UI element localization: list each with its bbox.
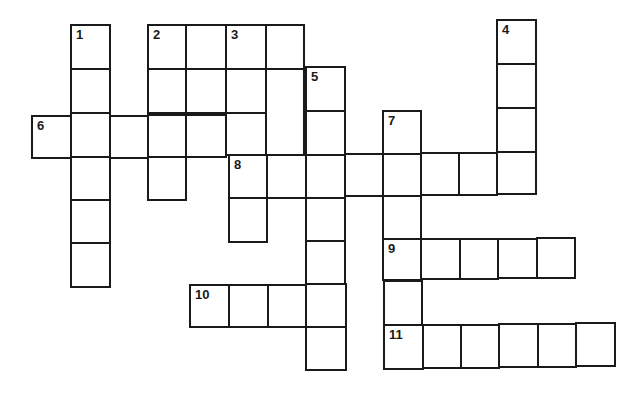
crossword-cell[interactable] xyxy=(70,156,111,201)
crossword-cell[interactable] xyxy=(185,68,227,114)
crossword-cell[interactable] xyxy=(383,280,423,326)
clue-number: 5 xyxy=(311,70,318,83)
crossword-cell[interactable] xyxy=(305,154,346,199)
crossword-cell[interactable] xyxy=(496,63,537,109)
crossword-cell[interactable] xyxy=(266,154,307,199)
crossword-cell[interactable] xyxy=(267,284,307,328)
clue-number: 7 xyxy=(388,114,395,127)
crossword-cell[interactable] xyxy=(185,114,227,158)
crossword-cell[interactable] xyxy=(460,324,500,369)
crossword-cell[interactable] xyxy=(265,24,305,70)
crossword-cell[interactable] xyxy=(185,24,227,70)
crossword-cell-1[interactable]: 1 xyxy=(70,24,111,70)
crossword-cell[interactable] xyxy=(228,284,269,328)
clue-number: 3 xyxy=(231,28,238,41)
crossword-cell[interactable] xyxy=(70,112,111,158)
crossword-cell[interactable] xyxy=(496,151,537,195)
crossword-cell[interactable] xyxy=(147,68,187,114)
crossword-cell[interactable] xyxy=(228,197,268,243)
clue-number: 10 xyxy=(195,288,209,301)
crossword-cell[interactable] xyxy=(147,156,187,201)
crossword-cell-10[interactable]: 10 xyxy=(189,284,230,328)
crossword-cell[interactable] xyxy=(225,112,267,156)
clue-number: 11 xyxy=(389,328,403,341)
crossword-cell-9[interactable]: 9 xyxy=(382,238,422,281)
crossword-cell-5[interactable]: 5 xyxy=(305,66,346,112)
crossword-cell[interactable] xyxy=(225,68,267,114)
crossword-cell[interactable] xyxy=(382,153,422,197)
crossword-cell[interactable] xyxy=(536,237,576,279)
crossword-cell-3[interactable]: 3 xyxy=(225,24,267,70)
crossword-cell[interactable] xyxy=(70,242,111,288)
crossword-cell[interactable] xyxy=(305,110,346,156)
crossword-cell[interactable] xyxy=(459,238,499,280)
clue-number: 4 xyxy=(502,23,509,36)
crossword-cell[interactable] xyxy=(305,283,347,328)
crossword-cell[interactable] xyxy=(265,68,305,156)
crossword-cell[interactable] xyxy=(458,152,498,196)
crossword-cell[interactable] xyxy=(537,323,577,368)
crossword-cell[interactable] xyxy=(305,240,346,285)
crossword-cell-4[interactable]: 4 xyxy=(496,19,537,65)
clue-number: 2 xyxy=(153,28,160,41)
crossword-cell[interactable] xyxy=(305,197,346,242)
crossword-cell[interactable] xyxy=(420,238,461,280)
crossword-cell[interactable] xyxy=(305,326,347,371)
crossword-cell-7[interactable]: 7 xyxy=(382,110,422,155)
crossword-cell[interactable] xyxy=(498,323,539,368)
clue-number: 6 xyxy=(37,119,44,132)
clue-number: 9 xyxy=(388,242,395,255)
crossword-cell-8[interactable]: 8 xyxy=(228,154,268,199)
clue-number: 8 xyxy=(234,158,241,171)
crossword-cell[interactable] xyxy=(70,199,111,244)
crossword-cell[interactable] xyxy=(382,195,422,240)
crossword-cell[interactable] xyxy=(344,153,384,197)
crossword-cell[interactable] xyxy=(420,152,460,196)
crossword-cell-6[interactable]: 6 xyxy=(31,115,72,159)
crossword-cell-2[interactable]: 2 xyxy=(147,24,187,70)
crossword-cell[interactable] xyxy=(109,115,149,159)
crossword-cell[interactable] xyxy=(575,322,616,367)
crossword-cell[interactable] xyxy=(496,107,537,153)
crossword-cell-11[interactable]: 11 xyxy=(383,324,424,370)
crossword-cell[interactable] xyxy=(497,238,538,279)
crossword-cell[interactable] xyxy=(70,68,111,114)
crossword-cell[interactable] xyxy=(147,114,187,158)
clue-number: 1 xyxy=(76,28,83,41)
crossword-cell[interactable] xyxy=(422,324,462,369)
crossword-grid: 1235687491011 xyxy=(0,0,644,396)
